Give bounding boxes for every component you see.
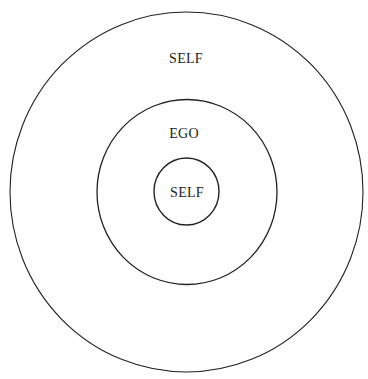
outer-label: SELF	[169, 51, 203, 66]
inner-label: SELF	[170, 185, 204, 200]
concentric-self-ego-diagram: SELF EGO SELF	[0, 0, 368, 379]
middle-label: EGO	[169, 126, 199, 141]
diagram-canvas: SELF EGO SELF	[0, 0, 368, 379]
